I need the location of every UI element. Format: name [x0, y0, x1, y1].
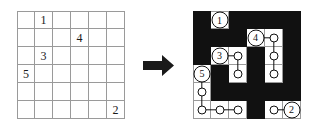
- solution-cell-r6c6-island[interactable]: 2: [283, 101, 301, 119]
- solution-cell-r5c6-wall[interactable]: [283, 83, 301, 101]
- puzzle-cell-r3c1[interactable]: [17, 47, 35, 65]
- island-dot-r4c5: [269, 69, 278, 78]
- puzzle-cell-r3c4[interactable]: [71, 47, 89, 65]
- solution-cell-r1c5-wall[interactable]: [265, 11, 283, 29]
- puzzle-cell-r2c3[interactable]: [53, 29, 71, 47]
- puzzle-cell-r1c4[interactable]: [71, 11, 89, 29]
- solution-cell-r2c6-wall[interactable]: [283, 29, 301, 47]
- puzzle-cell-r1c2[interactable]: 1: [35, 11, 53, 29]
- puzzle-cell-r6c5[interactable]: [89, 101, 107, 119]
- puzzle-cell-r4c2[interactable]: [35, 65, 53, 83]
- puzzle-cell-r6c6[interactable]: 2: [107, 101, 125, 119]
- island-dot-r6c3: [233, 105, 242, 114]
- solution-cell-r5c4-wall[interactable]: [247, 83, 265, 101]
- puzzle-cell-r1c1[interactable]: [17, 11, 35, 29]
- puzzle-cell-r4c5[interactable]: [89, 65, 107, 83]
- puzzle-clue-r4c1: 5: [18, 65, 34, 82]
- puzzle-clue-r6c6: 2: [107, 101, 124, 118]
- island-dot-r6c5: [269, 105, 278, 114]
- solution-cell-r3c2-island[interactable]: 3: [211, 47, 229, 65]
- solution-cell-r6c5-island[interactable]: [265, 101, 283, 119]
- puzzle-cell-r2c1[interactable]: [17, 29, 35, 47]
- puzzle-cell-r5c1[interactable]: [17, 83, 35, 101]
- puzzle-cell-r4c1[interactable]: 5: [17, 65, 35, 83]
- puzzle-cell-r5c5[interactable]: [89, 83, 107, 101]
- solution-cell-r1c2-island[interactable]: 1: [211, 11, 229, 29]
- island-dot-r3c3: [233, 51, 242, 60]
- solution-cell-r2c3-wall[interactable]: [229, 29, 247, 47]
- solution-cell-r5c5-wall[interactable]: [265, 83, 283, 101]
- solution-cell-r4c2-wall[interactable]: [211, 65, 229, 83]
- solution-cell-r6c4-wall[interactable]: [247, 101, 265, 119]
- solution-cell-r3c1-wall[interactable]: [193, 47, 211, 65]
- solution-cell-r3c4-wall[interactable]: [247, 47, 265, 65]
- solution-cell-r3c6-wall[interactable]: [283, 47, 301, 65]
- solution-cell-r1c4-wall[interactable]: [247, 11, 265, 29]
- puzzle-cell-r2c5[interactable]: [89, 29, 107, 47]
- solution-clue-r3c2: 3: [211, 47, 228, 64]
- island-dot-r2c5: [269, 33, 278, 42]
- solution-clue-r2c4: 4: [247, 29, 264, 46]
- solution-cell-r4c4-wall[interactable]: [247, 65, 265, 83]
- puzzle-cell-r6c3[interactable]: [53, 101, 71, 119]
- island-dot-r3c5: [269, 51, 278, 60]
- nurikabe-figure: Nurikabe puzzle and its solution 1 4 3: [0, 0, 318, 131]
- puzzle-cell-r3c2[interactable]: 3: [35, 47, 53, 65]
- puzzle-grid: 1 4 3 5: [17, 11, 125, 119]
- puzzle-cell-r3c6[interactable]: [107, 47, 125, 65]
- puzzle-clue-r2c4: 4: [71, 29, 88, 46]
- puzzle-cell-r5c6[interactable]: [107, 83, 125, 101]
- puzzle-cell-r5c4[interactable]: [71, 83, 89, 101]
- solution-grid: 14352: [193, 11, 301, 119]
- solution-cell-r1c1-wall[interactable]: [193, 11, 211, 29]
- puzzle-cell-r4c6[interactable]: [107, 65, 125, 83]
- solution-cell-r2c2-wall[interactable]: [211, 29, 229, 47]
- puzzle-cell-r5c2[interactable]: [35, 83, 53, 101]
- island-dot-r5c1: [198, 87, 207, 96]
- island-dot-r4c3: [233, 69, 242, 78]
- puzzle-cell-r2c6[interactable]: [107, 29, 125, 47]
- puzzle-cell-r1c3[interactable]: [53, 11, 71, 29]
- solution-cell-r2c4-island[interactable]: 4: [247, 29, 265, 47]
- solution-clue-r6c6: 2: [283, 101, 300, 118]
- puzzle-cell-r5c3[interactable]: [53, 83, 71, 101]
- solution-cell-r5c3-wall[interactable]: [229, 83, 247, 101]
- solution-clue-r1c2: 1: [211, 12, 228, 29]
- puzzle-cell-r1c6[interactable]: [107, 11, 125, 29]
- puzzle-clue-r3c2: 3: [35, 47, 52, 64]
- island-dot-r6c1: [198, 105, 207, 114]
- solution-clue-r4c1: 5: [194, 65, 211, 82]
- puzzle-cell-r6c2[interactable]: [35, 101, 53, 119]
- island-dot-r6c2: [215, 105, 224, 114]
- solution-cell-r5c2-wall[interactable]: [211, 83, 229, 101]
- puzzle-cell-r1c5[interactable]: [89, 11, 107, 29]
- solution-cell-r4c1-island[interactable]: 5: [193, 65, 211, 83]
- solution-cell-r4c6-wall[interactable]: [283, 65, 301, 83]
- puzzle-cell-r2c2[interactable]: [35, 29, 53, 47]
- puzzle-cell-r4c3[interactable]: [53, 65, 71, 83]
- solution-cell-r1c6-wall[interactable]: [283, 11, 301, 29]
- right-arrow-icon: [143, 54, 175, 77]
- puzzle-cell-r4c4[interactable]: [71, 65, 89, 83]
- puzzle-cell-r6c4[interactable]: [71, 101, 89, 119]
- puzzle-cell-r6c1[interactable]: [17, 101, 35, 119]
- puzzle-cell-r3c3[interactable]: [53, 47, 71, 65]
- puzzle-cell-r3c5[interactable]: [89, 47, 107, 65]
- solution-cell-r1c3-wall[interactable]: [229, 11, 247, 29]
- puzzle-cell-r2c4[interactable]: 4: [71, 29, 89, 47]
- puzzle-clue-r1c2: 1: [35, 12, 52, 28]
- solution-cell-r2c1-wall[interactable]: [193, 29, 211, 47]
